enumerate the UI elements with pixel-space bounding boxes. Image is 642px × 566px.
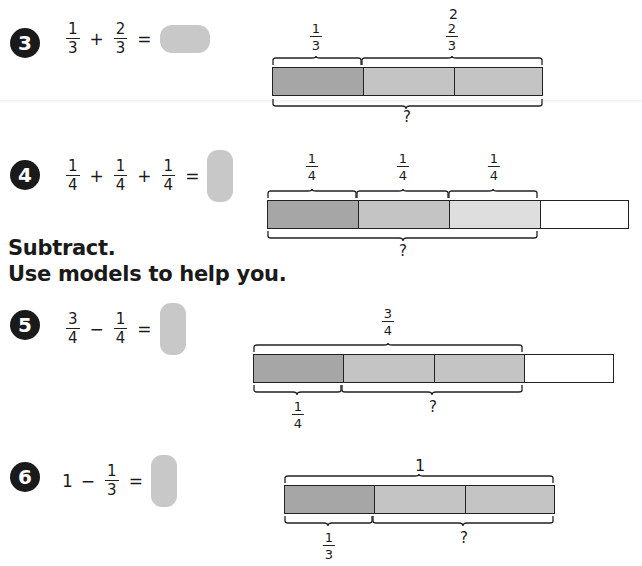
problem-5-equation: 34 − 14 = xyxy=(60,303,186,355)
bar-segment xyxy=(343,355,434,382)
problem-3-badge: 3 xyxy=(10,28,40,58)
top-brace xyxy=(253,343,525,353)
minus-sign: − xyxy=(81,471,95,491)
bar-segment xyxy=(449,201,540,228)
bar-segment xyxy=(454,68,542,95)
top-label: 13 xyxy=(310,20,322,52)
problem-5-badge: 5 xyxy=(10,310,40,340)
bar-segment xyxy=(434,355,524,382)
top-brace xyxy=(284,474,556,484)
fraction-bar-model xyxy=(284,485,555,514)
whole-number: 1 xyxy=(62,471,73,491)
section-heading-instruction: Use models to help you. xyxy=(8,262,286,286)
top-label: 14 xyxy=(306,150,318,182)
fraction-bar-model xyxy=(253,354,614,383)
fraction: 13 xyxy=(105,464,119,498)
top-label: 14 xyxy=(397,150,409,182)
bar-segment xyxy=(268,201,358,228)
fraction: 14 xyxy=(114,312,128,346)
fraction: 23 xyxy=(114,22,128,56)
problem-3-equation: 13 + 23 = xyxy=(60,22,210,56)
unknown-label: ? xyxy=(429,398,437,416)
unknown-label: ? xyxy=(399,242,407,260)
bar-segment xyxy=(358,201,449,228)
bar-segment xyxy=(285,486,374,513)
top-label: 14 xyxy=(488,150,500,182)
equals-sign: = xyxy=(185,166,199,186)
bar-segment xyxy=(254,355,343,382)
fraction: 13 xyxy=(66,22,80,56)
top-brace xyxy=(272,56,544,66)
equals-sign: = xyxy=(137,319,151,339)
problem-6-badge: 6 xyxy=(10,462,40,492)
section-heading-subtract: Subtract. xyxy=(8,236,115,260)
plus-sign: + xyxy=(90,29,104,49)
bottom-brace xyxy=(267,231,542,241)
equals-sign: = xyxy=(129,471,143,491)
problem-6-equation: 1 − 13 = xyxy=(62,455,177,507)
bar-segment xyxy=(524,355,613,382)
bar-segment xyxy=(363,68,454,95)
bar-segment xyxy=(540,201,628,228)
bottom-label: 13 xyxy=(323,529,335,561)
answer-box[interactable] xyxy=(160,303,186,355)
problem-4-badge: 4 xyxy=(10,160,40,190)
answer-box[interactable] xyxy=(151,455,177,507)
plus-sign: + xyxy=(137,166,151,186)
bar-segment xyxy=(374,486,465,513)
fraction: 34 xyxy=(66,312,80,346)
fraction-bar-model xyxy=(272,67,543,96)
fraction: 14 xyxy=(162,159,176,193)
fraction-bar-model xyxy=(267,200,629,229)
bar-segment xyxy=(273,68,363,95)
bottom-label: 14 xyxy=(292,398,304,430)
minus-sign: − xyxy=(90,319,104,339)
fraction: 14 xyxy=(66,159,80,193)
top-label-whole: 1 xyxy=(415,456,425,475)
answer-box[interactable] xyxy=(160,25,210,53)
top-label: 23 xyxy=(446,20,458,52)
fraction: 14 xyxy=(114,159,128,193)
bottom-brace xyxy=(284,516,556,526)
top-label: 34 xyxy=(382,305,394,337)
problem-4-equation: 14 + 14 + 14 = xyxy=(60,150,233,202)
answer-box[interactable] xyxy=(207,150,233,202)
plus-sign: + xyxy=(90,166,104,186)
top-brace xyxy=(267,189,542,199)
bottom-brace xyxy=(253,385,525,395)
bar-segment xyxy=(465,486,554,513)
unknown-label: ? xyxy=(403,108,411,126)
unknown-label: ? xyxy=(460,529,468,547)
equals-sign: = xyxy=(137,29,151,49)
